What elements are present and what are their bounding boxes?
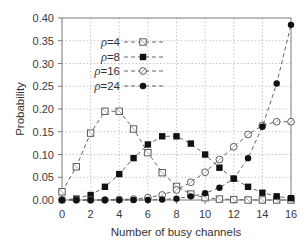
data-point (73, 197, 79, 203)
data-point (216, 196, 222, 202)
x-tick-label: 14 (256, 208, 268, 220)
data-point (245, 184, 251, 190)
data-point (259, 124, 265, 130)
data-point (273, 118, 280, 125)
data-point (130, 126, 136, 132)
y-tick-label: 0.20 (33, 103, 54, 115)
y-tick-label: 0.25 (33, 80, 54, 92)
data-point (216, 164, 222, 170)
data-point (130, 197, 136, 203)
data-point (87, 130, 93, 136)
x-tick-label: 10 (199, 208, 211, 220)
legend-item: ρ=16 (93, 64, 164, 78)
data-point (116, 197, 122, 203)
x-tick-label: 16 (285, 208, 297, 220)
data-point (259, 197, 265, 203)
y-tick-label: 0.00 (33, 194, 54, 206)
legend-label: ρ=8 (100, 50, 120, 64)
y-tick-label: 0.40 (33, 12, 54, 24)
x-tick-label: 12 (228, 208, 240, 220)
y-tick-label: 0.05 (33, 171, 54, 183)
data-point (145, 149, 151, 155)
data-point (187, 179, 194, 186)
data-point (159, 196, 165, 202)
data-point (173, 133, 179, 139)
data-point (202, 151, 208, 157)
x-tick-label: 6 (145, 208, 151, 220)
data-point (259, 190, 265, 196)
data-point (173, 195, 179, 201)
legend-marker (140, 39, 146, 45)
data-point (231, 196, 237, 202)
data-point (145, 141, 151, 147)
data-point (273, 193, 279, 199)
data-point (145, 197, 151, 203)
data-point (159, 133, 165, 139)
data-point (245, 155, 251, 161)
data-point (59, 189, 65, 195)
data-point (159, 170, 165, 176)
x-tick-label: 8 (173, 208, 179, 220)
data-point (202, 190, 208, 196)
data-point (202, 169, 209, 176)
x-tick-label: 2 (88, 208, 94, 220)
data-point (288, 22, 294, 28)
data-point (188, 193, 194, 199)
series-line (62, 25, 291, 200)
y-tick-label: 0.30 (33, 58, 54, 70)
data-point (73, 164, 79, 170)
data-point (288, 195, 294, 201)
data-point (188, 140, 194, 146)
x-tick-label: 0 (59, 208, 65, 220)
data-point (216, 156, 223, 163)
legend-label: ρ=4 (100, 35, 121, 49)
legend: ρ=4ρ=8ρ=16ρ=24 (93, 35, 164, 93)
y-tick-label: 0.35 (33, 35, 54, 47)
data-point (230, 143, 237, 150)
data-point (87, 197, 93, 203)
legend-marker (140, 54, 146, 60)
grid-lines (62, 18, 291, 200)
y-axis-ticks: 0.000.050.100.150.200.250.300.350.40 (33, 12, 62, 206)
legend-item: ρ=4 (100, 35, 164, 49)
legend-label: ρ=16 (93, 64, 120, 78)
data-point (102, 197, 108, 203)
legend-marker (140, 83, 146, 89)
data-point (245, 197, 251, 203)
y-tick-label: 0.10 (33, 149, 54, 161)
y-axis-label: Probability (14, 82, 26, 136)
data-point (273, 80, 279, 86)
x-tick-label: 4 (116, 208, 122, 220)
data-point (130, 155, 136, 161)
legend-label: ρ=24 (93, 79, 120, 93)
data-point (116, 108, 122, 114)
legend-item: ρ=8 (100, 50, 164, 64)
data-point (102, 108, 108, 114)
legend-marker (140, 68, 147, 75)
data-point (116, 171, 122, 177)
data-point (59, 197, 65, 203)
data-point (288, 118, 295, 125)
x-axis-label: Number of busy channels (111, 226, 242, 238)
y-tick-label: 0.15 (33, 126, 54, 138)
probability-chart: 0.000.050.100.150.200.250.300.350.40 024… (0, 0, 307, 250)
data-point (231, 175, 237, 181)
data-point (216, 185, 222, 191)
data-point (245, 131, 252, 138)
data-point (173, 187, 180, 194)
data-point (102, 184, 108, 190)
